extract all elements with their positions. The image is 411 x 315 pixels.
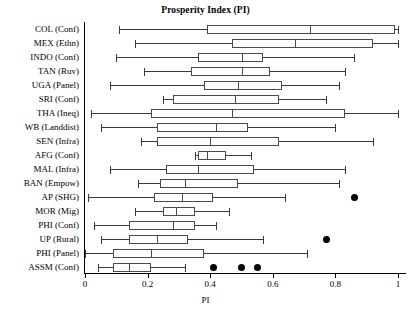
median-line xyxy=(216,123,217,132)
median-line xyxy=(173,221,174,230)
box-iqr xyxy=(160,179,238,188)
x-tick-mark xyxy=(335,274,336,278)
y-axis-label: MAL (Infra) xyxy=(0,164,79,174)
whisker-low-line xyxy=(135,211,163,212)
x-axis-title: PI xyxy=(0,295,411,305)
whisker-high-line xyxy=(279,141,373,142)
whisker-low-line xyxy=(110,85,204,86)
y-axis-label: TAN (Ruv) xyxy=(0,66,79,76)
box-iqr xyxy=(207,25,395,34)
whisker-high-line xyxy=(270,71,345,72)
whisker-high-line xyxy=(248,127,336,128)
whisker-high-cap xyxy=(339,180,340,188)
median-line xyxy=(129,263,130,272)
box-iqr xyxy=(163,207,194,216)
whisker-low-cap xyxy=(135,40,136,48)
y-axis-label: AP (SHG) xyxy=(0,192,79,202)
median-line xyxy=(232,109,233,118)
x-tick-mark xyxy=(148,274,149,278)
whisker-high-cap xyxy=(345,166,346,174)
x-tick-mark xyxy=(398,274,399,278)
y-axis-label: SRI (Conf) xyxy=(0,94,79,104)
whisker-high-line xyxy=(188,239,263,240)
whisker-high-line xyxy=(279,99,326,100)
whisker-low-cap xyxy=(101,124,102,132)
whisker-high-cap xyxy=(229,208,230,216)
whisker-high-cap xyxy=(398,110,399,118)
whisker-high-cap xyxy=(398,26,399,34)
whisker-low-cap xyxy=(101,236,102,244)
plot-area xyxy=(85,22,398,274)
x-tick-mark xyxy=(273,274,274,278)
x-tick-label: 0.6 xyxy=(258,279,288,289)
whisker-high-line xyxy=(373,43,398,44)
whisker-high-line xyxy=(254,169,345,170)
whisker-high-line xyxy=(238,183,338,184)
y-axis-label: SEN (Infra) xyxy=(0,136,79,146)
box-iqr xyxy=(191,67,269,76)
whisker-low-line xyxy=(110,169,166,170)
whisker-high-cap xyxy=(285,194,286,202)
whisker-high-line xyxy=(282,85,338,86)
whisker-high-cap xyxy=(339,82,340,90)
whisker-high-cap xyxy=(326,96,327,104)
box-iqr xyxy=(198,151,226,160)
box-iqr xyxy=(204,81,282,90)
whisker-low-cap xyxy=(98,264,99,272)
whisker-low-cap xyxy=(141,138,142,146)
box-iqr xyxy=(113,249,204,258)
whisker-low-line xyxy=(101,239,129,240)
median-line xyxy=(242,53,243,62)
whisker-high-cap xyxy=(251,152,252,160)
median-line xyxy=(310,25,311,34)
median-line xyxy=(185,179,186,188)
whisker-low-line xyxy=(98,267,114,268)
y-axis-label: MEX (Ethn) xyxy=(0,38,79,48)
median-line xyxy=(238,81,239,90)
y-axis-label: THA (Ineq) xyxy=(0,108,79,118)
whisker-high-line xyxy=(195,225,217,226)
box-iqr xyxy=(129,221,195,230)
whisker-low-cap xyxy=(85,250,86,258)
whisker-low-cap xyxy=(110,166,111,174)
whisker-high-cap xyxy=(216,222,217,230)
whisker-low-cap xyxy=(91,110,92,118)
whisker-high-line xyxy=(213,197,285,198)
whisker-high-cap xyxy=(354,54,355,62)
whisker-low-cap xyxy=(135,208,136,216)
median-line xyxy=(198,165,199,174)
box-iqr xyxy=(129,235,188,244)
median-line xyxy=(242,67,243,76)
median-line xyxy=(207,151,208,160)
whisker-high-line xyxy=(195,211,229,212)
median-line xyxy=(176,207,177,216)
whisker-high-cap xyxy=(335,124,336,132)
whisker-high-cap xyxy=(373,138,374,146)
boxplot-chart: Prosperity Index (PI) COL (Conf)MEX (Eth… xyxy=(0,0,411,315)
whisker-low-line xyxy=(88,197,154,198)
whisker-low-cap xyxy=(163,96,164,104)
box-iqr xyxy=(198,53,264,62)
y-axis-label: INDO (Conf) xyxy=(0,52,79,62)
whisker-low-cap xyxy=(138,180,139,188)
whisker-low-line xyxy=(116,57,197,58)
whisker-low-cap xyxy=(144,68,145,76)
outlier-point xyxy=(323,236,330,243)
y-axis-label: PHI (Panel) xyxy=(0,248,79,258)
whisker-high-cap xyxy=(345,68,346,76)
y-axis-label: WB (Landdist) xyxy=(0,122,79,132)
y-axis-label: PHI (Conf) xyxy=(0,220,79,230)
whisker-high-line xyxy=(151,267,185,268)
whisker-high-cap xyxy=(398,40,399,48)
whisker-low-cap xyxy=(88,194,89,202)
y-axis-label: MOR (Mig) xyxy=(0,206,79,216)
whisker-low-cap xyxy=(110,82,111,90)
whisker-low-line xyxy=(101,127,157,128)
whisker-low-line xyxy=(119,29,207,30)
box-iqr xyxy=(173,95,279,104)
whisker-high-line xyxy=(263,57,354,58)
median-line xyxy=(235,95,236,104)
x-tick-label: 0.2 xyxy=(133,279,163,289)
box-iqr xyxy=(166,165,254,174)
box-iqr xyxy=(113,263,151,272)
